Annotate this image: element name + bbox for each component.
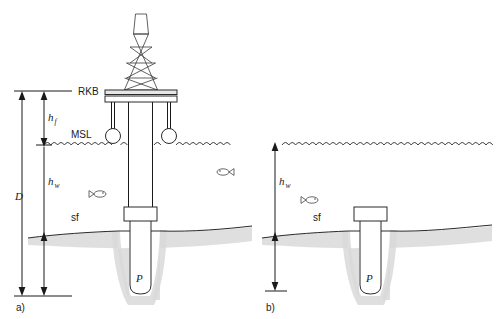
- leg-float-right: [162, 129, 177, 144]
- label-dim-hw-b-subscript: w: [286, 181, 291, 190]
- label-dim-hf-symbol: h: [48, 111, 54, 123]
- label-dim-hw-a-subscript: w: [55, 181, 60, 190]
- offshore-datum-diagram: RKB MSL sf P D h f h w a): [0, 0, 501, 319]
- label-dim-hw-b-symbol: h: [279, 175, 285, 187]
- figure-root: RKB MSL sf P D h f h w a): [0, 0, 501, 319]
- label-seafloor-b: sf: [313, 212, 321, 223]
- canvas-background: [0, 0, 501, 319]
- wellhead-a: [124, 207, 157, 221]
- platform-deck-top: [105, 90, 177, 95]
- leg-float-left: [106, 129, 121, 144]
- label-msl: MSL: [71, 129, 92, 140]
- label-seafloor-a: sf: [71, 212, 79, 223]
- platform-deck: [105, 96, 177, 102]
- label-reservoir-b: P: [365, 272, 373, 284]
- panel-tag-b: b): [266, 302, 275, 313]
- label-dim-D: D: [14, 190, 23, 202]
- label-dim-hw-a-symbol: h: [48, 175, 54, 187]
- panel-tag-a: a): [16, 302, 25, 313]
- label-rkb: RKB: [78, 86, 99, 97]
- wellhead-b: [354, 207, 387, 221]
- label-reservoir-a: P: [135, 272, 143, 284]
